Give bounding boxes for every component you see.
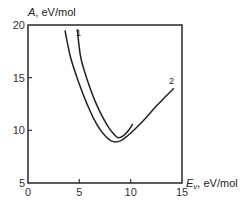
y-tick-label: 20 [13,19,25,31]
curve-2 [65,30,174,142]
ticks: 0510155101520 [13,19,188,198]
curves [65,29,174,142]
y-tick-label: 15 [13,72,25,84]
y-tick-label: 5 [19,177,25,189]
x-tick-label: 0 [25,186,31,198]
y-tick-label: 10 [13,124,25,136]
x-tick-label: 5 [76,186,82,198]
x-tick-label: 10 [125,186,137,198]
curve-1 [77,29,132,138]
curve-2-label: 2 [169,76,174,86]
y-axis-title: A, eV/mol [27,6,76,18]
x-axis-title: Ev, eV/mol [186,177,238,191]
chart: 0510155101520 A, eV/mol Ev, eV/mol 1 2 [0,0,243,204]
curve-1-label: 1 [76,28,81,38]
